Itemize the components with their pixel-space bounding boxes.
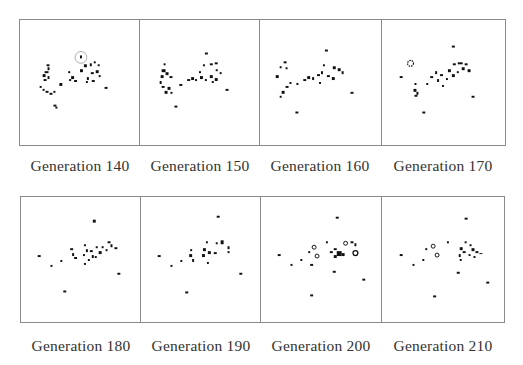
panel-generation-180 bbox=[20, 196, 141, 323]
cell-pattern-gen-210 bbox=[382, 197, 504, 322]
caption-generation-200: Generation 200 bbox=[259, 337, 383, 355]
caption-generation-160: Generation 160 bbox=[258, 157, 382, 175]
cell-pattern-gen-170 bbox=[382, 20, 505, 145]
caption-generation-140: Generation 140 bbox=[18, 157, 142, 175]
caption-generation-180: Generation 180 bbox=[19, 337, 143, 355]
caption-generation-170: Generation 170 bbox=[381, 157, 505, 175]
panel-generation-190 bbox=[140, 196, 261, 323]
cell-pattern-gen-160 bbox=[260, 20, 381, 145]
panel-generation-160 bbox=[259, 19, 382, 146]
cell-pattern-gen-180 bbox=[21, 197, 140, 322]
cell-pattern-gen-150 bbox=[140, 20, 259, 145]
panel-generation-140 bbox=[19, 19, 140, 146]
cell-pattern-gen-140 bbox=[20, 20, 139, 145]
panel-generation-150 bbox=[139, 19, 260, 146]
panel-generation-210 bbox=[381, 196, 505, 323]
panel-generation-200 bbox=[260, 196, 382, 323]
caption-generation-210: Generation 210 bbox=[381, 337, 505, 355]
caption-generation-150: Generation 150 bbox=[138, 157, 262, 175]
panel-generation-170 bbox=[381, 19, 506, 146]
cell-pattern-gen-190 bbox=[141, 197, 260, 322]
cell-pattern-gen-200 bbox=[261, 197, 381, 322]
caption-generation-190: Generation 190 bbox=[139, 337, 263, 355]
